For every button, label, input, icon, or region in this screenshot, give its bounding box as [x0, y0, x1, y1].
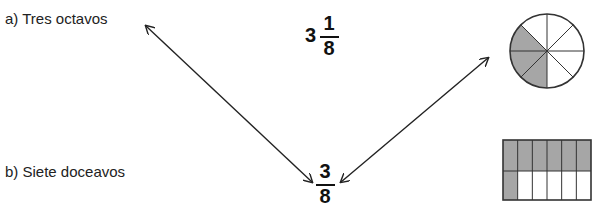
- diagram-canvas: [0, 0, 605, 217]
- rectangle-figure: [503, 140, 591, 200]
- circle-figure: [510, 14, 584, 88]
- arrow-fraction-to-circle: [341, 58, 488, 182]
- arrow-a-to-fraction: [146, 26, 312, 182]
